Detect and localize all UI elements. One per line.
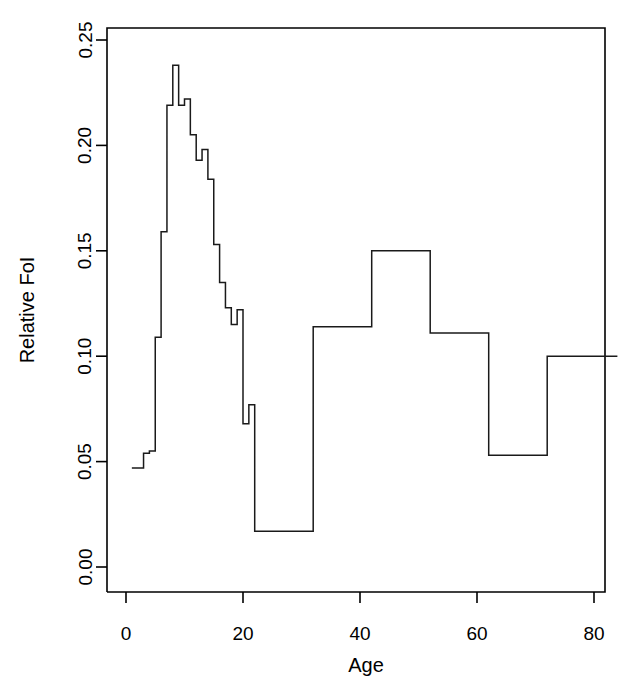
x-tick-label: 40	[349, 623, 370, 644]
y-tick-label: 0.00	[75, 549, 96, 586]
y-tick-label: 0.10	[75, 338, 96, 375]
y-tick-label: 0.15	[75, 232, 96, 269]
x-tick-label: 20	[232, 623, 253, 644]
y-tick-label: 0.25	[75, 22, 96, 59]
y-tick-label: 0.05	[75, 443, 96, 480]
x-axis-title: Age	[348, 654, 384, 676]
x-tick-label: 80	[583, 623, 604, 644]
y-axis-title: Relative FoI	[16, 257, 38, 364]
x-tick-label: 60	[466, 623, 487, 644]
y-tick-label: 0.20	[75, 127, 96, 164]
x-tick-label: 0	[121, 623, 132, 644]
relative-foi-step-chart: 0.000.050.100.150.200.25 020406080 Age R…	[0, 0, 634, 698]
chart-canvas: 0.000.050.100.150.200.25 020406080 Age R…	[0, 0, 634, 698]
